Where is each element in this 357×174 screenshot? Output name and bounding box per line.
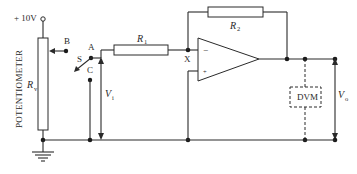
dvm-label: DVM (297, 92, 318, 102)
svg-text:v: v (34, 85, 38, 92)
ground-icon (32, 140, 54, 161)
feedback-resistor-label: R 2 (229, 20, 240, 32)
input-voltage-label: V i (105, 88, 114, 101)
potentiometer-label: POTENTIOMETER (14, 50, 24, 128)
terminal-c-label: C (87, 65, 93, 75)
potentiometer (38, 38, 48, 130)
switch-ground-node (88, 138, 93, 143)
output-voltage-label: V o (338, 89, 348, 102)
svg-text:i: i (112, 94, 114, 101)
input-resistor (114, 45, 168, 55)
terminal-b (64, 49, 68, 53)
terminal-b-label: B (64, 36, 70, 46)
opamp-inverting-label: − (203, 45, 208, 55)
circuit-diagram: + 10V POTENTIOMETER R v B A S C V i R 1 (0, 0, 357, 174)
svg-text:o: o (345, 95, 348, 102)
svg-text:R: R (136, 33, 143, 44)
input-voltage-arrow-icon (98, 57, 104, 140)
svg-text:R: R (26, 79, 33, 90)
supply-terminal (41, 17, 45, 38)
feedback-resistor (208, 7, 263, 17)
svg-text:R: R (229, 20, 236, 31)
switch-label: S (77, 54, 82, 64)
output-node (285, 57, 290, 62)
potentiometer-symbol: R v (26, 79, 38, 92)
wiper-arrow-icon (49, 48, 66, 54)
supply-label: + 10V (14, 13, 37, 23)
summing-node-label: X (184, 54, 191, 64)
input-resistor-label: R 1 (136, 33, 147, 45)
svg-text:1: 1 (144, 38, 147, 45)
opamp-noninverting-label: + (203, 68, 207, 75)
svg-text:2: 2 (237, 25, 240, 32)
terminal-a-label: A (88, 42, 95, 52)
